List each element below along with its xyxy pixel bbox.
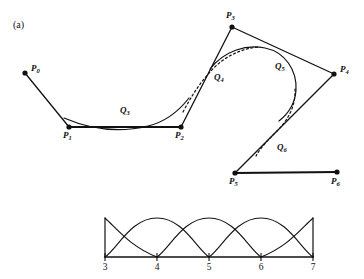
polygon-segment-p0-p1 — [25, 73, 69, 127]
label-q6: Q6 — [277, 143, 287, 152]
control-point-markers — [22, 24, 339, 175]
label-p3: P3 — [226, 11, 235, 20]
label-p5-sub: 5 — [235, 180, 238, 187]
spline-curve-solid — [64, 47, 296, 130]
basis-curve-b5 — [209, 218, 313, 257]
label-q4: Q4 — [214, 73, 224, 82]
label-p4: P4 — [340, 65, 349, 74]
point-marker-p6 — [334, 169, 339, 174]
label-p1-text: P — [63, 130, 69, 140]
label-p5-text: P — [229, 176, 235, 186]
polygon-segment-p4-p5 — [235, 74, 334, 173]
label-q3: Q3 — [120, 106, 130, 115]
label-p3-text: P — [226, 10, 232, 20]
label-p0-sub: 0 — [37, 67, 40, 74]
label-p6: P6 — [331, 177, 340, 186]
curve-segment-q5 — [210, 47, 296, 121]
tick-label-7: 7 — [311, 262, 316, 272]
label-q6-sub: 6 — [284, 146, 287, 153]
label-p6-sub: 6 — [337, 180, 340, 187]
label-p3-sub: 3 — [232, 14, 235, 21]
label-p4-text: P — [340, 64, 346, 74]
point-marker-p3 — [229, 24, 234, 29]
basis-curve-b6 — [105, 218, 157, 257]
point-marker-p0 — [22, 70, 27, 75]
tick-label-5: 5 — [207, 262, 212, 272]
label-q5-sub: 5 — [282, 65, 285, 72]
polygon-segment-p2-p3 — [181, 27, 232, 127]
label-q5-text: Q — [275, 61, 282, 71]
basis-curve-b3 — [105, 218, 209, 257]
point-marker-p1 — [66, 124, 71, 129]
label-p2-text: P — [175, 130, 181, 140]
basis-function-chart — [105, 218, 313, 261]
label-p4-sub: 4 — [346, 68, 349, 75]
label-p2-sub: 2 — [181, 134, 184, 141]
tick-label-3: 3 — [103, 262, 108, 272]
label-p6-text: P — [331, 176, 337, 186]
label-q4-sub: 4 — [221, 76, 224, 83]
control-polygon — [25, 27, 337, 173]
tick-label-6: 6 — [259, 262, 264, 272]
label-p1-sub: 1 — [69, 134, 72, 141]
tick-label-4: 4 — [155, 262, 160, 272]
point-marker-p5 — [232, 170, 237, 175]
bspline-figure: (a) P0 P1 P2 P3 P4 P5 P6 Q3 Q4 Q5 Q6 3 4… — [0, 0, 364, 279]
label-p0: P0 — [31, 64, 40, 73]
label-q4-text: Q — [214, 72, 221, 82]
basis-curve-b7 — [261, 218, 313, 257]
polygon-segment-p5-p6 — [235, 172, 337, 173]
point-marker-p4 — [331, 71, 336, 76]
label-p0-text: P — [31, 63, 37, 73]
point-marker-p2 — [178, 124, 183, 129]
label-q5: Q5 — [275, 62, 285, 71]
basis-curves — [105, 218, 313, 257]
label-p5: P5 — [229, 177, 238, 186]
label-p2: P2 — [175, 131, 184, 140]
label-q3-sub: 3 — [127, 109, 130, 116]
label-p1: P1 — [63, 131, 72, 140]
label-q3-text: Q — [120, 105, 127, 115]
basis-curve-b4 — [157, 218, 261, 257]
panel-tag: (a) — [13, 19, 24, 30]
chart-axes — [105, 218, 313, 257]
label-q6-text: Q — [277, 142, 284, 152]
